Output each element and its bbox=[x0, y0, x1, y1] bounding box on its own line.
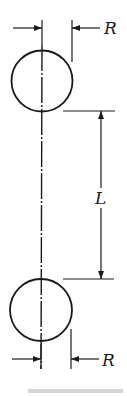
cropped-caption bbox=[28, 389, 123, 393]
two-circles-diagram: R L R bbox=[0, 0, 127, 396]
center-line bbox=[41, 45, 42, 369]
top-radius-label: R bbox=[103, 18, 117, 38]
bottom-radius-label: R bbox=[101, 350, 115, 370]
separation-label: L bbox=[94, 188, 106, 208]
